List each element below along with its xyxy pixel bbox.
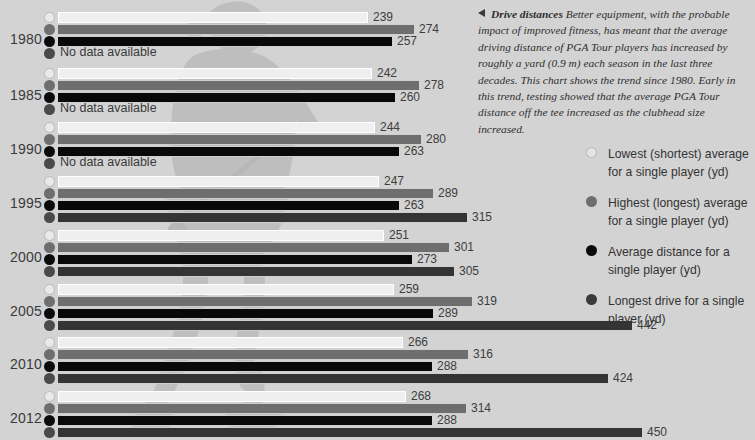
bar-value-label: 263 bbox=[399, 198, 424, 212]
bar-value-label: 266 bbox=[403, 335, 428, 349]
series-marker-dot bbox=[44, 176, 55, 187]
bar-value-label: 263 bbox=[399, 144, 424, 158]
bar-value-label: 257 bbox=[392, 34, 417, 48]
legend-swatch-dot bbox=[586, 147, 597, 158]
year-label: 1980 bbox=[0, 31, 42, 47]
data-bar bbox=[58, 122, 375, 133]
data-bar bbox=[58, 337, 403, 348]
series-marker-dot bbox=[44, 296, 55, 307]
series-marker-dot bbox=[44, 349, 55, 360]
bar-value-label: 251 bbox=[384, 228, 409, 242]
bar-value-label: 289 bbox=[433, 306, 458, 320]
series-marker-dot bbox=[44, 36, 55, 47]
series-marker-dot bbox=[44, 200, 55, 211]
year-label: 2010 bbox=[0, 356, 42, 372]
legend-item: Highest (longest) average for a single p… bbox=[586, 193, 754, 229]
bar-value-label: 316 bbox=[468, 347, 493, 361]
left-triangle-icon bbox=[478, 9, 485, 17]
bar-value-label: 319 bbox=[472, 294, 497, 308]
series-marker-dot bbox=[44, 24, 55, 35]
data-bar bbox=[58, 349, 468, 360]
series-marker-dot bbox=[44, 80, 55, 91]
series-marker-dot bbox=[44, 158, 55, 169]
series-marker-dot bbox=[44, 134, 55, 145]
series-marker-dot bbox=[44, 48, 55, 59]
bar-value-label: 280 bbox=[421, 132, 446, 146]
legend-label: Average distance for a single player (yd… bbox=[608, 245, 730, 277]
legend-swatch-dot bbox=[586, 294, 597, 305]
year-label: 1985 bbox=[0, 87, 42, 103]
year-label: 2000 bbox=[0, 249, 42, 265]
data-bar bbox=[58, 266, 454, 277]
series-marker-dot bbox=[44, 254, 55, 265]
no-data-label: No data available bbox=[58, 155, 157, 169]
data-bar bbox=[58, 296, 472, 307]
data-bar bbox=[58, 242, 449, 253]
bar-value-label: 314 bbox=[466, 401, 491, 415]
bar-value-label: 268 bbox=[406, 389, 431, 403]
legend-swatch-dot bbox=[586, 245, 597, 256]
caption-text: Drive distances Better equipment, with t… bbox=[478, 6, 750, 137]
legend-item: Lowest (shortest) average for a single p… bbox=[586, 144, 754, 180]
data-bar bbox=[58, 68, 372, 79]
series-marker-dot bbox=[44, 242, 55, 253]
data-bar bbox=[58, 134, 421, 145]
data-bar bbox=[58, 254, 412, 265]
series-marker-dot bbox=[44, 188, 55, 199]
series-marker-dot bbox=[44, 212, 55, 223]
bar-value-label: 450 bbox=[642, 425, 667, 439]
series-marker-dot bbox=[44, 308, 55, 319]
legend-label: Highest (longest) average for a single p… bbox=[608, 196, 748, 228]
series-marker-dot bbox=[44, 68, 55, 79]
series-marker-dot bbox=[44, 361, 55, 372]
bar-value-label: 273 bbox=[412, 252, 437, 266]
bar-value-label: 424 bbox=[608, 371, 633, 385]
bar-value-label: 288 bbox=[432, 413, 457, 427]
legend-swatch-dot bbox=[586, 196, 597, 207]
legend-item: Longest drive for a single player (yd) bbox=[586, 291, 754, 327]
data-bar bbox=[58, 176, 379, 187]
caption-heading: Drive distances bbox=[491, 8, 563, 20]
legend-label: Lowest (shortest) average for a single p… bbox=[608, 147, 749, 179]
series-marker-dot bbox=[44, 230, 55, 241]
bar-value-label: 247 bbox=[379, 174, 404, 188]
bar-value-label: 259 bbox=[394, 282, 419, 296]
bar-value-label: 289 bbox=[433, 186, 458, 200]
no-data-label: No data available bbox=[58, 45, 157, 59]
year-label: 1995 bbox=[0, 195, 42, 211]
infographic-root: 1980239274257No data available1985242278… bbox=[0, 0, 755, 440]
bar-value-label: 242 bbox=[372, 66, 397, 80]
year-label: 2012 bbox=[0, 410, 42, 426]
data-bar bbox=[58, 361, 432, 372]
legend-label: Longest drive for a single player (yd) bbox=[608, 294, 744, 326]
bar-value-label: 239 bbox=[368, 10, 393, 24]
series-marker-dot bbox=[44, 373, 55, 384]
chart-legend: Lowest (shortest) average for a single p… bbox=[586, 144, 754, 340]
data-bar bbox=[58, 415, 432, 426]
data-bar bbox=[58, 188, 433, 199]
series-marker-dot bbox=[44, 284, 55, 295]
data-bar bbox=[58, 284, 394, 295]
series-marker-dot bbox=[44, 12, 55, 23]
data-bar bbox=[58, 308, 433, 319]
series-marker-dot bbox=[44, 146, 55, 157]
series-marker-dot bbox=[44, 92, 55, 103]
data-bar bbox=[58, 212, 467, 223]
data-bar bbox=[58, 24, 414, 35]
data-bar bbox=[58, 200, 399, 211]
data-bar bbox=[58, 12, 368, 23]
bar-value-label: 315 bbox=[467, 210, 492, 224]
data-bar bbox=[58, 373, 608, 384]
no-data-label: No data available bbox=[58, 101, 157, 115]
series-marker-dot bbox=[44, 337, 55, 348]
year-label: 1990 bbox=[0, 141, 42, 157]
series-marker-dot bbox=[44, 415, 55, 426]
data-bar bbox=[58, 320, 632, 331]
series-marker-dot bbox=[44, 320, 55, 331]
data-bar bbox=[58, 403, 466, 414]
series-marker-dot bbox=[44, 427, 55, 438]
year-label: 2005 bbox=[0, 303, 42, 319]
caption-body: Better equipment, with the probable impa… bbox=[478, 8, 735, 135]
data-bar bbox=[58, 230, 384, 241]
data-bar bbox=[58, 80, 419, 91]
